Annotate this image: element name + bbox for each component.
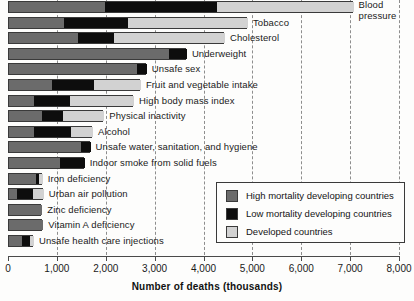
bar-category-label: Physical inactivity xyxy=(109,111,185,122)
x-tick-1000 xyxy=(57,256,58,261)
x-tick-label-7000: 7,000 xyxy=(338,263,363,274)
x-tick-2000 xyxy=(106,256,107,261)
x-tick-label-1000: 1,000 xyxy=(44,263,69,274)
bar-segment xyxy=(9,96,34,106)
bar-segment xyxy=(78,33,114,43)
legend-swatch-developed xyxy=(226,226,238,238)
bar-segment xyxy=(30,236,34,246)
x-tick-label-3000: 3,000 xyxy=(142,263,167,274)
bar-segment xyxy=(81,142,91,152)
bar-segment xyxy=(9,80,52,90)
bar-category-label: Unsafe water, sanitation, and hygiene xyxy=(96,142,258,153)
bar-segment xyxy=(70,96,134,106)
bar-category-label: Alcohol xyxy=(98,127,130,138)
bar-segment xyxy=(34,96,70,106)
bar-segment xyxy=(9,2,105,12)
bar-segment xyxy=(217,2,354,12)
legend-label-developed: Developed countries xyxy=(246,226,333,237)
bar-segment xyxy=(9,174,36,184)
bar-segment xyxy=(94,80,141,90)
x-tick-label-4000: 4,000 xyxy=(191,263,216,274)
bar-segment xyxy=(9,49,169,59)
stacked-bar xyxy=(8,141,90,153)
bar-segment xyxy=(71,127,93,137)
legend-item-developed: Developed countries xyxy=(226,225,333,238)
stacked-bar xyxy=(8,79,140,91)
bar-category-label: Fruit and vegetable intake xyxy=(146,80,258,91)
bar-segment xyxy=(9,127,34,137)
bar-category-label: Zinc deficiency xyxy=(47,205,111,216)
bar-segment xyxy=(9,33,78,43)
bar-segment xyxy=(33,189,44,199)
x-axis-label: Number of deaths (thousands) xyxy=(0,281,414,292)
bar-segment xyxy=(9,158,60,168)
x-tick-8000 xyxy=(399,256,400,261)
legend-label-low-mortality-developing: Low mortality developing countries xyxy=(246,208,392,219)
bar-category-label: Urban air pollution xyxy=(49,189,128,200)
x-tick-3000 xyxy=(155,256,156,261)
bar-segment xyxy=(9,142,81,152)
chart-legend: High mortality developing countries Low … xyxy=(216,182,405,243)
stacked-bar xyxy=(8,110,103,122)
stacked-bar xyxy=(8,157,84,169)
bar-category-label: Unsafe sex xyxy=(152,64,201,75)
bar-segment xyxy=(17,189,33,199)
bar-segment xyxy=(9,18,64,28)
stacked-bar xyxy=(8,173,42,185)
stacked-bar xyxy=(8,63,146,75)
stacked-bar xyxy=(8,17,247,29)
legend-item-low-mortality-developing: Low mortality developing countries xyxy=(226,207,392,220)
stacked-bar xyxy=(8,188,43,200)
bar-segment xyxy=(9,220,43,230)
legend-swatch-high-mortality-developing xyxy=(226,190,238,202)
x-tick-label-5000: 5,000 xyxy=(240,263,265,274)
x-tick-label-8000: 8,000 xyxy=(386,263,411,274)
x-tick-6000 xyxy=(301,256,302,261)
stacked-bar xyxy=(8,95,133,107)
legend-swatch-low-mortality-developing xyxy=(226,208,238,220)
legend-item-high-mortality-developing: High mortality developing countries xyxy=(226,189,394,202)
bar-segment xyxy=(64,18,128,28)
x-tick-4000 xyxy=(204,256,205,261)
stacked-bar xyxy=(8,204,41,216)
x-tick-label-2000: 2,000 xyxy=(93,263,118,274)
bar-segment xyxy=(9,64,137,74)
bar-segment xyxy=(128,18,248,28)
risk-factor-deaths-chart: Blood pressureTobaccoCholesterolUnderwei… xyxy=(0,0,414,301)
bar-category-label: Iron deficiency xyxy=(48,174,111,185)
stacked-bar xyxy=(8,32,224,44)
bar-category-label: Cholesterol xyxy=(230,33,279,44)
bar-category-label: High body mass index xyxy=(139,96,234,107)
bar-segment xyxy=(9,111,42,121)
bar-segment xyxy=(39,174,43,184)
bar-category-label: Underweight xyxy=(192,49,246,60)
bar-category-label: Vitamin A deficiency xyxy=(48,220,134,231)
legend-label-high-mortality-developing: High mortality developing countries xyxy=(246,190,394,201)
bar-segment xyxy=(9,236,22,246)
x-tick-label-6000: 6,000 xyxy=(289,263,314,274)
x-tick-0 xyxy=(8,256,9,261)
stacked-bar xyxy=(8,1,353,13)
bar-category-label: Indoor smoke from solid fuels xyxy=(90,158,217,169)
bar-segment xyxy=(169,49,187,59)
bar-segment xyxy=(42,111,63,121)
bar-segment xyxy=(63,111,104,121)
bar-segment xyxy=(9,189,17,199)
bar-category-label: Blood pressure xyxy=(359,0,397,21)
bar-segment xyxy=(114,33,225,43)
bar-category-label: Unsafe health care injections xyxy=(39,236,164,247)
bar-segment xyxy=(60,158,85,168)
stacked-bar xyxy=(8,235,33,247)
bar-segment xyxy=(22,236,30,246)
stacked-bar xyxy=(8,126,92,138)
stacked-bar xyxy=(8,219,42,231)
bar-segment xyxy=(9,205,42,215)
stacked-bar xyxy=(8,48,186,60)
x-tick-label-0: 0 xyxy=(5,263,11,274)
bar-segment xyxy=(52,80,94,90)
bar-segment xyxy=(34,127,71,137)
bar-segment xyxy=(137,64,147,74)
x-tick-5000 xyxy=(252,256,253,261)
x-tick-7000 xyxy=(350,256,351,261)
bar-category-label: Tobacco xyxy=(253,18,289,29)
